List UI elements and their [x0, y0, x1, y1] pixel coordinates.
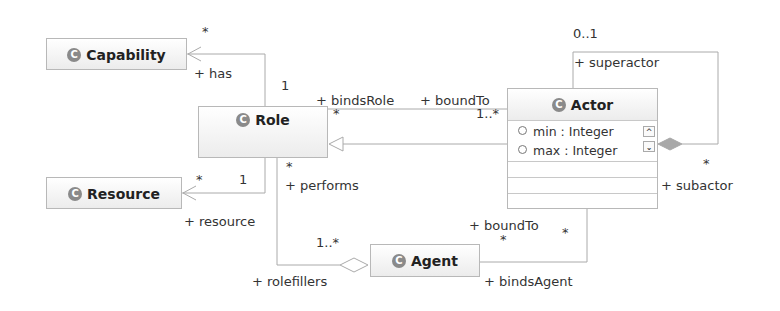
operations-compartment [508, 161, 657, 177]
multiplicity-label: * [202, 25, 209, 38]
role-label: + boundTo [469, 219, 539, 232]
role-label: + bindsAgent [484, 275, 573, 288]
class-header: C Role [199, 107, 327, 133]
edge-agent-actor [480, 208, 587, 262]
generalization-triangle [329, 137, 343, 151]
class-role[interactable]: C Role [198, 106, 328, 158]
attribute-min[interactable]: min : Integer [508, 122, 657, 141]
class-header: C Resource [47, 178, 181, 209]
class-capability[interactable]: C Capability [46, 38, 187, 70]
multiplicity-label: * [562, 226, 569, 239]
class-header: C Actor [508, 89, 657, 120]
visibility-icon [518, 126, 527, 135]
class-name: Role [255, 112, 290, 128]
compartment [508, 193, 657, 208]
role-label: + bindsRole [316, 94, 394, 107]
class-icon: C [67, 48, 81, 62]
compartment [508, 177, 657, 193]
multiplicity-label: 1 [281, 79, 289, 92]
multiplicity-label: 1..* [316, 236, 339, 249]
class-agent[interactable]: C Agent [370, 244, 480, 277]
class-icon: C [552, 98, 566, 112]
aggregation-diamond [340, 258, 368, 272]
role-label: + performs [285, 179, 359, 192]
multiplicity-label: * [703, 157, 710, 170]
multiplicity-label: * [196, 173, 203, 186]
multiplicity-label: 1 [239, 173, 247, 186]
visibility-icon [518, 145, 527, 154]
class-name: Resource [87, 186, 160, 202]
class-icon: C [392, 254, 406, 268]
role-label: + rolefillers [252, 275, 327, 288]
composition-diamond [658, 138, 682, 150]
multiplicity-label: * [500, 233, 507, 246]
class-actor[interactable]: C Actor min : Integer max : Integer ^ ⌄ [507, 88, 658, 209]
attribute-max[interactable]: max : Integer [508, 141, 657, 160]
class-resource[interactable]: C Resource [46, 177, 182, 209]
class-icon: C [68, 187, 82, 201]
multiplicity-label: * [333, 107, 340, 120]
scroll-down-button[interactable]: ⌄ [643, 141, 655, 152]
role-label: + superactor [574, 56, 659, 69]
role-label: + has [194, 67, 232, 80]
multiplicity-label: 1..* [476, 107, 499, 120]
class-name: Capability [86, 47, 165, 63]
multiplicity-label: 0..1 [573, 27, 598, 40]
role-label: + subactor [661, 179, 733, 192]
scroll-up-button[interactable]: ^ [643, 126, 655, 137]
class-icon: C [236, 113, 250, 127]
multiplicity-label: * [286, 160, 293, 173]
class-name: Actor [571, 97, 613, 113]
class-header: C Agent [371, 245, 479, 276]
class-name: Agent [411, 253, 458, 269]
class-header: C Capability [47, 39, 186, 70]
edge-role-resource [182, 158, 265, 193]
role-label: + resource [184, 215, 255, 228]
attributes-compartment[interactable]: min : Integer max : Integer ^ ⌄ [508, 120, 657, 161]
